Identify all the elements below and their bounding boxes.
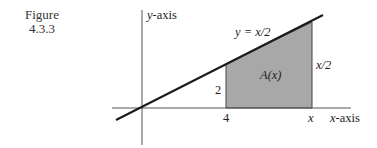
y-axis-label: y-axis [145,8,177,22]
height-left-label: 2 [215,83,221,97]
line-equation-label: y = x/2 [233,25,271,39]
area-label: A(x) [259,68,282,82]
tick-label-x: x [307,111,314,125]
x-axis-label: x-axis [329,111,360,125]
tick-label-4: 4 [223,111,230,125]
height-right-label: x/2 [315,58,331,72]
area-diagram: y-axis y = x/2 A(x) 2 x/2 4 x x-axis [0,0,377,148]
